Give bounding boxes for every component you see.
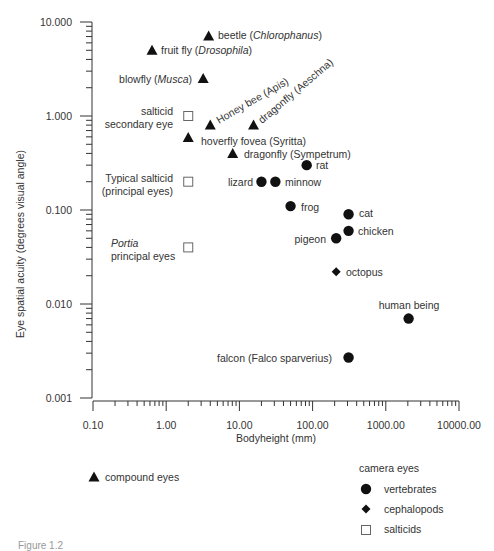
label-octopus: octopus: [346, 266, 383, 278]
triangle-marker-icon: [198, 73, 209, 83]
legend: compound eyescamera eyesvertebratescepha…: [89, 462, 444, 535]
circle-marker-icon: [256, 177, 266, 187]
y-tick-label: 10.000: [40, 16, 72, 28]
label-fruitfly: fruit fly (Drosophila): [161, 44, 252, 56]
legend-label: salticids: [384, 523, 421, 535]
x-tick-label: 0.10: [83, 419, 104, 431]
circle-marker-icon: [343, 352, 353, 362]
diamond-marker-icon: [332, 267, 341, 276]
triangle-marker-icon: [248, 120, 259, 130]
circle-marker-icon: [343, 209, 353, 219]
x-tick-label: 10000.00: [437, 419, 481, 431]
circle-marker-icon: [403, 313, 413, 323]
figure-caption: Figure 1.2: [18, 540, 63, 551]
label-chicken: chicken: [358, 225, 394, 237]
label-typical-salticid: Typical salticid: [105, 172, 173, 184]
triangle-marker-icon: [183, 132, 194, 142]
point-labels: beetle (Chlorophanus)fruit fly (Drosophi…: [102, 29, 440, 364]
y-tick-label: 0.100: [46, 204, 72, 216]
label-human: human being: [379, 299, 440, 311]
open-square-marker-icon: [184, 243, 193, 252]
y-axis-label: Eye spatial acuity (degrees visual angle…: [14, 150, 26, 338]
label-rat: rat: [316, 159, 328, 171]
triangle-marker-icon: [227, 148, 238, 158]
label-pigeon: pigeon: [294, 233, 326, 245]
x-tick-label: 1.00: [156, 419, 177, 431]
circle-marker-icon: [343, 226, 353, 236]
circle-marker-icon: [285, 201, 295, 211]
triangle-marker-icon: [147, 45, 158, 55]
diamond-marker-icon: [362, 505, 371, 514]
x-tick-label: 100.00: [297, 419, 329, 431]
y-tick-label: 1.000: [46, 110, 72, 122]
tick-labels: 0.0010.0100.1001.00010.0000.101.0010.001…: [40, 16, 481, 431]
label-blowfly: blowfly (Musca): [119, 73, 192, 85]
label-salticid-secondary: secondary eye: [105, 118, 173, 130]
label-typical-salticid: (principal eyes): [102, 185, 173, 197]
open-square-marker-icon: [362, 526, 371, 535]
triangle-marker-icon: [89, 472, 100, 482]
x-tick-label: 10.00: [226, 419, 252, 431]
label-portia: principal eyes: [111, 250, 175, 262]
open-square-marker-icon: [184, 177, 193, 186]
label-hoverfly: hoverfly fovea (Syritta): [201, 135, 306, 147]
triangle-marker-icon: [205, 120, 216, 130]
label-lizard: lizard: [228, 176, 253, 188]
label-cat: cat: [359, 207, 373, 219]
label-portia: Portia: [111, 237, 139, 249]
y-tick-label: 0.010: [46, 298, 72, 310]
scatter-chart: 0.0010.0100.1001.00010.0000.101.0010.001…: [0, 0, 494, 551]
legend-label: vertebrates: [384, 483, 437, 495]
x-axis-label: Bodyheight (mm): [236, 432, 316, 444]
circle-marker-icon: [331, 233, 341, 243]
legend-title: camera eyes: [359, 462, 419, 474]
circle-marker-icon: [270, 177, 280, 187]
legend-label: compound eyes: [105, 471, 179, 483]
open-square-marker-icon: [184, 112, 193, 121]
y-tick-label: 0.001: [46, 392, 72, 404]
circle-marker-icon: [301, 160, 311, 170]
label-minnow: minnow: [285, 176, 322, 188]
label-falcon: falcon (Falco sparverius): [217, 352, 332, 364]
legend-label: cephalopods: [384, 503, 444, 515]
label-sympetrum: dragonfly (Sympetrum): [244, 148, 351, 160]
label-beetle: beetle (Chlorophanus): [218, 29, 322, 41]
circle-marker-icon: [361, 484, 371, 494]
x-tick-label: 1000.00: [367, 419, 405, 431]
label-salticid-secondary: salticid: [141, 105, 173, 117]
label-frog: frog: [301, 201, 319, 213]
triangle-marker-icon: [203, 30, 214, 40]
